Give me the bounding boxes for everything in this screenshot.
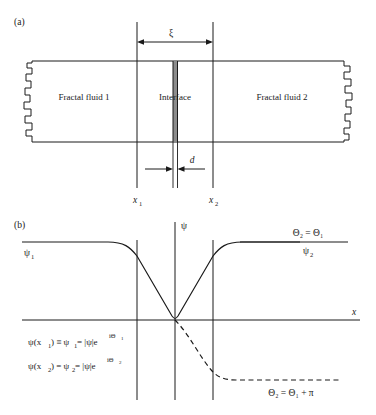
psi-2-plateau-label: ψ 2 (303, 246, 313, 258)
equation-2-rhs: = |ψ|e (75, 361, 96, 371)
order-parameter-dashed-curve (175, 320, 340, 380)
d-label: d (190, 155, 195, 165)
equation-1-exponent-sub: 1 (121, 336, 124, 341)
x1-label-sub: 1 (139, 200, 142, 207)
xi-label: ξ (169, 28, 174, 39)
equation-1-lhs-close: ) ≡ ψ (51, 337, 70, 347)
anti-phase-label: Θ₂ = Θ₁ + π (268, 388, 314, 398)
interface-label: Interface (159, 92, 191, 102)
equation-2-exponent: iΘ (107, 356, 114, 363)
x1-label-main: x (132, 195, 138, 205)
psi-1-main: ψ (24, 248, 30, 258)
panel-a-x1-tick-label: x 1 (132, 195, 142, 207)
equation-1-rhs: = |ψ|e (77, 337, 98, 347)
order-parameter-solid-curve (22, 242, 300, 319)
figure-svg: (a) ξ Fractal fluid 1 Interfac (0, 0, 376, 415)
equation-psi-x2: ψ(x 2 ) = ψ 2 = |ψ|e iΘ 2 (28, 356, 122, 373)
psi-1-plateau-label: ψ 1 (24, 248, 34, 260)
x2-label-main: x (208, 195, 214, 205)
equation-1-lhs: ψ(x (28, 337, 42, 347)
panel-b-group: (b) ψ x ψ 1 ψ 2 (14, 220, 360, 400)
figure-container: (a) ξ Fractal fluid 1 Interfac (0, 0, 376, 415)
x-axis-label: x (351, 307, 357, 317)
equation-2-exponent-sub: 2 (119, 360, 122, 365)
equation-psi-x1: ψ(x 1 ) ≡ ψ 1 = |ψ|e iΘ 1 (28, 332, 124, 349)
equation-2-lhs-close: ) = ψ (51, 361, 70, 371)
panel-a-label: (a) (14, 17, 25, 28)
psi-2-sub: 2 (310, 251, 313, 258)
psi-2-main: ψ (303, 246, 309, 256)
panel-a-x2-tick-label: x 2 (208, 195, 218, 207)
x2-label-sub: 2 (215, 200, 218, 207)
fractal-fluid-2-label: Fractal fluid 2 (257, 92, 308, 102)
xi-dimension-arrow (137, 39, 213, 44)
equation-2-lhs: ψ(x (28, 361, 42, 371)
panel-a-group: (a) ξ Fractal fluid 1 Interfac (14, 17, 352, 207)
psi-1-sub: 1 (31, 253, 34, 260)
psi-axis-label: ψ (181, 221, 187, 231)
equation-1-exponent: iΘ (109, 332, 116, 339)
d-dimension-arrow (145, 166, 205, 171)
panel-b-label: (b) (14, 220, 25, 231)
in-phase-label: Θ₂ = Θ₁ (293, 228, 323, 238)
fractal-fluid-1-label: Fractal fluid 1 (59, 92, 110, 102)
